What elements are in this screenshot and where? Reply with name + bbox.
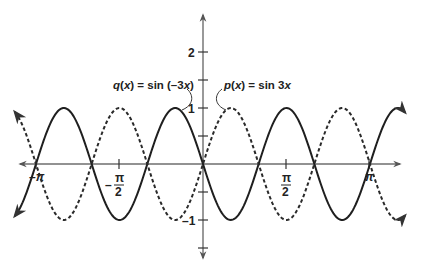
y-tick-label-neg1: –1 [182, 214, 196, 228]
svg-text:2: 2 [282, 185, 289, 199]
label-q: q(x) = sin (–3x) [113, 79, 194, 91]
svg-text:–: – [105, 178, 112, 192]
svg-text:2: 2 [115, 185, 122, 199]
function-plot: 2 1 –1 –π – π 2 π 2 π q(x) = sin (–3x) p… [0, 0, 421, 274]
svg-text:π: π [115, 171, 124, 185]
leader-p [216, 89, 226, 110]
y-tick-label-1: 1 [188, 102, 195, 116]
label-p: p(x) = sin 3x [223, 79, 291, 91]
svg-text:π: π [282, 171, 291, 185]
y-tick-label-2: 2 [188, 46, 195, 60]
x-tick-label-pi-over-2: π 2 [281, 171, 291, 199]
x-tick-label-neg-pi-over-2: – π 2 [105, 171, 124, 199]
